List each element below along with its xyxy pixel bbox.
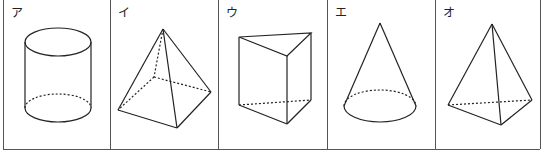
triangular-prism-figure — [219, 0, 328, 150]
cone-figure — [328, 0, 436, 150]
square-pyramid-figure — [111, 0, 219, 150]
triangular-pyramid-figure — [436, 0, 541, 150]
cell-cone: エ — [328, 0, 436, 149]
figure-table: ア イ — [3, 0, 540, 150]
cell-triangular-prism: ウ — [219, 0, 328, 149]
cell-square-pyramid: イ — [111, 0, 219, 149]
cylinder-figure — [4, 0, 111, 150]
cell-cylinder: ア — [4, 0, 111, 149]
cell-triangular-pyramid: オ — [436, 0, 541, 149]
